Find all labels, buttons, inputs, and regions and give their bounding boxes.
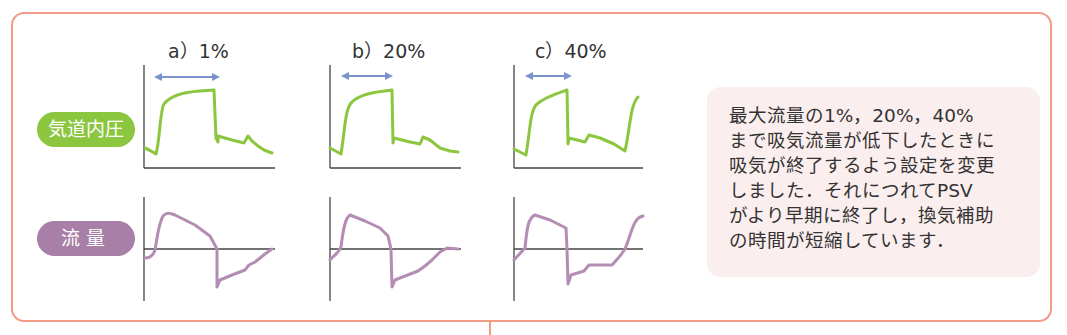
inspiration-arrows <box>156 76 570 77</box>
pressure-curves <box>145 90 638 155</box>
note-line: まで吸気流量が低下したときに <box>729 128 1030 153</box>
note-line: 吸気が終了するよう設定を変更 <box>729 153 1030 178</box>
note-line: がより早期に終了し，換気補助 <box>729 203 1030 228</box>
note-line: の時間が短縮しています． <box>729 228 1030 253</box>
note-line: しました．それにつれてPSV <box>729 178 1030 203</box>
flow-curves <box>145 213 643 287</box>
note-line: 最大流量の1%，20%，40% <box>729 103 1030 128</box>
explanation-note: 最大流量の1%，20%，40% まで吸気流量が低下したときに 吸気が終了するよう… <box>707 87 1040 277</box>
